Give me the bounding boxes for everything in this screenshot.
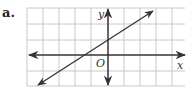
x-axis-label: x: [177, 59, 184, 72]
coordinate-plane: y O x: [0, 0, 192, 88]
grid: [27, 8, 185, 86]
y-axis-label: y: [97, 8, 105, 21]
graphed-line: [38, 11, 153, 85]
origin-label: O: [96, 57, 105, 70]
